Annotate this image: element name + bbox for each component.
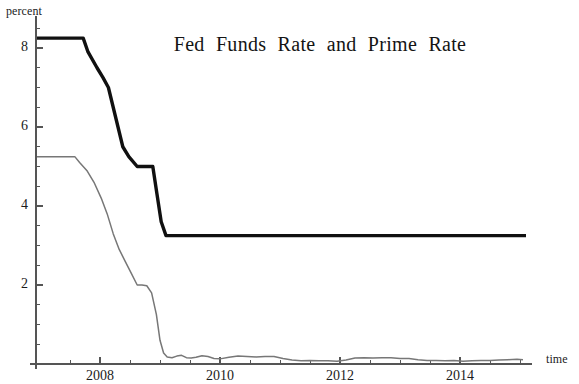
data-series-line-2 <box>37 157 523 362</box>
y-axis-tick-label: 8 <box>6 39 28 55</box>
y-axis-tick-label: 4 <box>6 197 28 213</box>
y-axis-tick-label: 6 <box>6 118 28 134</box>
x-axis-tick-label: 2010 <box>190 368 250 384</box>
x-axis-tick-label: 2012 <box>310 368 370 384</box>
axes-group <box>30 16 532 369</box>
x-axis-tick-label: 2014 <box>430 368 490 384</box>
data-series-group <box>37 38 526 361</box>
y-axis-tick-label: 2 <box>6 276 28 292</box>
data-series-line-1 <box>37 38 526 236</box>
x-axis-tick-label: 2008 <box>70 368 130 384</box>
